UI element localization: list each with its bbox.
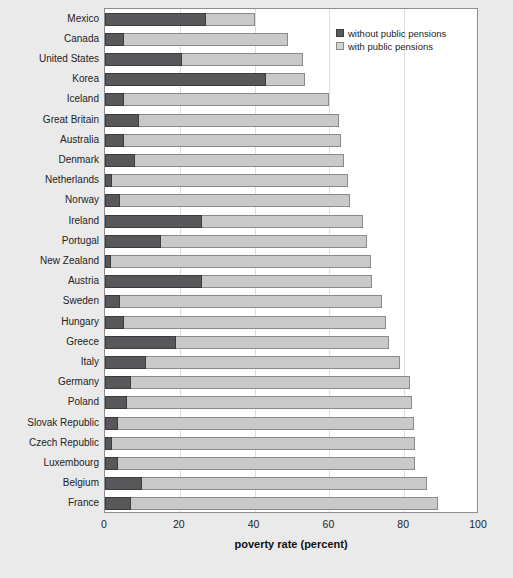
y-axis-label-italy: Italy: [0, 355, 99, 368]
y-axis-label-germany: Germany: [0, 375, 99, 388]
bar-segment-without-public-pensions[interactable]: [105, 215, 202, 228]
bar-row[interactable]: [105, 93, 477, 106]
y-axis-category-labels: MexicoCanadaUnited StatesKoreaIcelandGre…: [0, 8, 99, 513]
x-tick-label-80: 80: [397, 518, 409, 530]
bar-segment-with-public-pensions[interactable]: [105, 497, 438, 510]
bar-segment-without-public-pensions[interactable]: [105, 154, 135, 167]
bar-row[interactable]: [105, 275, 477, 288]
y-axis-label-denmark: Denmark: [0, 153, 99, 166]
bar-segment-with-public-pensions[interactable]: [105, 396, 412, 409]
bar-row[interactable]: [105, 194, 477, 207]
bar-segment-without-public-pensions[interactable]: [105, 497, 131, 510]
bar-row[interactable]: [105, 215, 477, 228]
bar-row[interactable]: [105, 174, 477, 187]
bar-segment-with-public-pensions[interactable]: [105, 93, 329, 106]
bar-segment-without-public-pensions[interactable]: [105, 134, 124, 147]
bar-segment-with-public-pensions[interactable]: [105, 295, 382, 308]
y-axis-label-hungary: Hungary: [0, 315, 99, 328]
bar-row[interactable]: [105, 336, 477, 349]
bar-segment-without-public-pensions[interactable]: [105, 457, 118, 470]
legend-item-with-public-pensions: with public pensions: [336, 40, 446, 52]
bar-segment-without-public-pensions[interactable]: [105, 477, 142, 490]
bar-segment-without-public-pensions[interactable]: [105, 235, 161, 248]
bar-row[interactable]: [105, 154, 477, 167]
bar-segment-without-public-pensions[interactable]: [105, 93, 124, 106]
legend-item-without-public-pensions: without public pensions: [336, 27, 446, 39]
legend-label-without-public-pensions: without public pensions: [348, 28, 446, 39]
bar-row[interactable]: [105, 417, 477, 430]
y-axis-label-great-britain: Great Britain: [0, 113, 99, 126]
y-axis-label-belgium: Belgium: [0, 476, 99, 489]
y-axis-label-korea: Korea: [0, 72, 99, 85]
bar-segment-without-public-pensions[interactable]: [105, 295, 120, 308]
y-axis-label-canada: Canada: [0, 32, 99, 45]
y-axis-label-france: France: [0, 496, 99, 509]
y-axis-label-united-states: United States: [0, 52, 99, 65]
bar-rows: [105, 9, 477, 512]
x-tick-label-0: 0: [101, 518, 107, 530]
bar-segment-without-public-pensions[interactable]: [105, 356, 146, 369]
bar-row[interactable]: [105, 376, 477, 389]
bar-row[interactable]: [105, 477, 477, 490]
bar-segment-with-public-pensions[interactable]: [105, 174, 348, 187]
bar-segment-without-public-pensions[interactable]: [105, 53, 182, 66]
bar-segment-without-public-pensions[interactable]: [105, 417, 118, 430]
bar-row[interactable]: [105, 316, 477, 329]
bar-segment-without-public-pensions[interactable]: [105, 114, 139, 127]
legend-swatch-light-icon: [336, 42, 344, 50]
bar-row[interactable]: [105, 73, 477, 86]
bar-segment-without-public-pensions[interactable]: [105, 174, 112, 187]
bar-row[interactable]: [105, 295, 477, 308]
x-tick-label-40: 40: [248, 518, 260, 530]
bar-segment-without-public-pensions[interactable]: [105, 376, 131, 389]
y-axis-label-iceland: Iceland: [0, 92, 99, 105]
bar-row[interactable]: [105, 114, 477, 127]
bar-segment-without-public-pensions[interactable]: [105, 396, 127, 409]
bar-segment-without-public-pensions[interactable]: [105, 194, 120, 207]
bar-segment-with-public-pensions[interactable]: [105, 477, 427, 490]
bar-row[interactable]: [105, 255, 477, 268]
bar-segment-with-public-pensions[interactable]: [105, 437, 415, 450]
bar-segment-without-public-pensions[interactable]: [105, 316, 124, 329]
bar-segment-without-public-pensions[interactable]: [105, 275, 202, 288]
y-axis-label-australia: Australia: [0, 133, 99, 146]
x-axis-title: poverty rate (percent): [104, 538, 478, 550]
bar-segment-with-public-pensions[interactable]: [105, 33, 288, 46]
bar-segment-without-public-pensions[interactable]: [105, 33, 124, 46]
bar-row[interactable]: [105, 13, 477, 26]
x-tick-label-100: 100: [469, 518, 487, 530]
chart-legend: without public pensions with public pens…: [336, 27, 446, 53]
y-axis-label-poland: Poland: [0, 395, 99, 408]
bar-segment-with-public-pensions[interactable]: [105, 316, 386, 329]
poverty-rate-chart: MexicoCanadaUnited StatesKoreaIcelandGre…: [0, 0, 513, 578]
bar-row[interactable]: [105, 396, 477, 409]
bar-row[interactable]: [105, 457, 477, 470]
x-tick-label-20: 20: [173, 518, 185, 530]
bar-segment-with-public-pensions[interactable]: [105, 134, 341, 147]
bar-segment-without-public-pensions[interactable]: [105, 336, 176, 349]
bar-row[interactable]: [105, 53, 477, 66]
bar-segment-without-public-pensions[interactable]: [105, 73, 266, 86]
bar-segment-with-public-pensions[interactable]: [105, 194, 350, 207]
bar-segment-with-public-pensions[interactable]: [105, 417, 414, 430]
bar-segment-with-public-pensions[interactable]: [105, 255, 371, 268]
y-axis-label-austria: Austria: [0, 274, 99, 287]
bar-segment-with-public-pensions[interactable]: [105, 376, 410, 389]
bar-segment-with-public-pensions[interactable]: [105, 154, 344, 167]
bar-segment-with-public-pensions[interactable]: [105, 356, 400, 369]
y-axis-label-portugal: Portugal: [0, 234, 99, 247]
x-tick-label-60: 60: [323, 518, 335, 530]
bar-row[interactable]: [105, 235, 477, 248]
bar-row[interactable]: [105, 356, 477, 369]
y-axis-label-mexico: Mexico: [0, 12, 99, 25]
bar-segment-without-public-pensions[interactable]: [105, 437, 112, 450]
bar-row[interactable]: [105, 134, 477, 147]
bar-segment-without-public-pensions[interactable]: [105, 255, 111, 268]
bar-row[interactable]: [105, 437, 477, 450]
bar-segment-without-public-pensions[interactable]: [105, 13, 206, 26]
bar-row[interactable]: [105, 497, 477, 510]
bar-segment-with-public-pensions[interactable]: [105, 457, 415, 470]
bar-segment-with-public-pensions[interactable]: [105, 114, 339, 127]
y-axis-label-new-zealand: New Zealand: [0, 254, 99, 267]
y-axis-label-czech-republic: Czech Republic: [0, 436, 99, 449]
